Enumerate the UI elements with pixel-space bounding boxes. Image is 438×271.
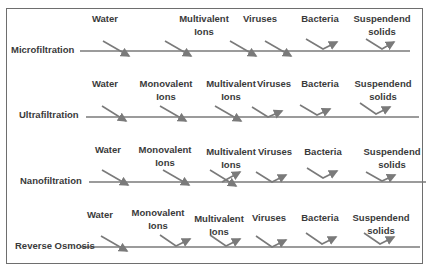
particle-label-suspended-solids: Suspendendsolids xyxy=(352,211,409,237)
particle-label-water: Water xyxy=(95,143,121,156)
process-label-microfiltration: Microfiltration xyxy=(11,44,74,55)
process-label-ultrafiltration: Ultrafiltration xyxy=(19,109,79,120)
particle-label-monovalent: MonovalentIons xyxy=(139,143,192,169)
particle-label-multivalent: MultivalentIons xyxy=(194,212,244,238)
particle-label-monovalent: MonovalentIons xyxy=(132,206,185,232)
particle-label-suspended-solids: Suspendendsolids xyxy=(354,77,411,103)
particle-label-viruses: Viruses xyxy=(243,12,277,25)
process-label-nanofiltration: Nanofiltration xyxy=(20,175,82,186)
particle-label-suspended-solids: Suspendendsolids xyxy=(363,145,420,171)
particle-label-multivalent: MultivalentIons xyxy=(206,77,256,103)
particle-label-bacteria: Bacteria xyxy=(301,12,339,25)
particle-label-monovalent: MonovalentIons xyxy=(140,77,193,103)
particle-label-bacteria: Bacteria xyxy=(304,145,342,158)
process-label-reverse-osmosis: Reverse Osmosis xyxy=(15,240,95,251)
particle-label-viruses: Viruses xyxy=(252,211,286,224)
particle-label-water: Water xyxy=(92,12,118,25)
particle-label-suspended-solids: Suspendendsolids xyxy=(353,12,410,38)
particle-label-multivalent: MultivalentIons xyxy=(179,12,229,38)
particle-label-viruses: Viruses xyxy=(258,145,292,158)
particle-label-bacteria: Bacteria xyxy=(301,211,339,224)
particle-label-viruses: Viruses xyxy=(257,77,291,90)
particle-label-bacteria: Bacteria xyxy=(301,77,339,90)
particle-label-water: Water xyxy=(87,208,113,221)
particle-label-water: Water xyxy=(92,77,118,90)
particle-label-multivalent: MultivalentIons xyxy=(206,145,256,171)
